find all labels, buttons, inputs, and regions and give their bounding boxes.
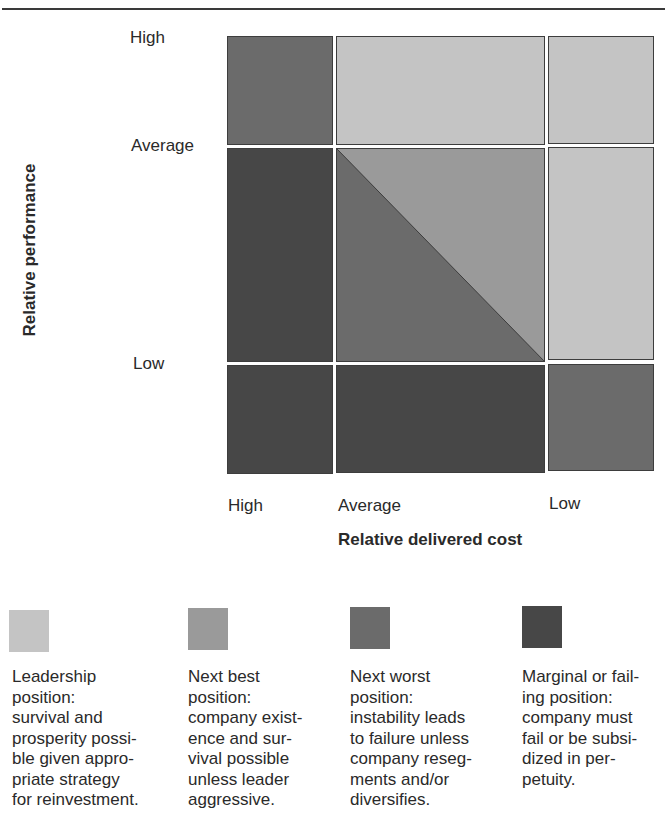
top-rule	[2, 8, 665, 10]
y-axis-title: Relative performance	[20, 150, 40, 350]
cell-high-perf-high-cost	[227, 36, 333, 145]
legend-text-marginal: Marginal or fail- ing position: company …	[522, 667, 639, 790]
cell-avg-perf-avg-cost	[336, 148, 545, 362]
cell-low-perf-high-cost	[227, 365, 333, 474]
legend-swatch-next-best	[188, 608, 228, 650]
cell-avg-perf-low-cost	[548, 147, 654, 360]
x-tick-high: High	[228, 496, 263, 516]
cell-high-perf-avg-cost	[336, 36, 545, 145]
y-tick-high: High	[130, 28, 165, 48]
cell-low-perf-avg-cost	[336, 365, 545, 473]
cell-avg-perf-high-cost	[227, 148, 333, 362]
legend-swatch-leadership	[9, 610, 49, 652]
x-tick-low: Low	[549, 494, 580, 514]
legend-swatch-marginal	[522, 606, 562, 648]
diagonal-split	[337, 149, 545, 362]
x-tick-average: Average	[338, 496, 401, 516]
legend-text-leadership: Leadership position: survival and prospe…	[12, 667, 139, 811]
y-tick-average: Average	[131, 136, 194, 156]
x-axis-title: Relative delivered cost	[338, 530, 522, 550]
cell-high-perf-low-cost	[548, 36, 654, 144]
legend-text-next-worst: Next worst position: instability leads t…	[350, 667, 472, 811]
legend-swatch-next-worst	[350, 607, 390, 649]
legend-text-next-best: Next best position: company exist- ence …	[188, 667, 302, 811]
cell-low-perf-low-cost	[548, 364, 654, 471]
y-tick-low: Low	[133, 354, 164, 374]
